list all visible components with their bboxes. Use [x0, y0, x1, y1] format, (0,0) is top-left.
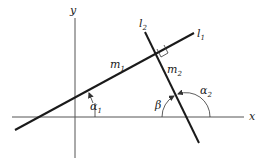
line-l2: [145, 32, 199, 143]
y-axis-label: y: [69, 4, 77, 17]
slope-m2-label: m2: [167, 63, 182, 78]
perpendicular-lines-diagram: y x l1 l2 m1 m2 α1 β α2: [0, 0, 262, 161]
x-axis-label: x: [249, 110, 256, 123]
beta-arc: [162, 96, 174, 117]
alpha1-label: α1: [90, 100, 102, 115]
line-l1: [15, 33, 194, 130]
line-l2-label: l2: [139, 17, 148, 32]
alpha2-label: α2: [200, 84, 212, 99]
slope-m1-label: m1: [110, 58, 125, 73]
line-l1-label: l1: [197, 27, 205, 42]
beta-label: β: [154, 99, 161, 112]
